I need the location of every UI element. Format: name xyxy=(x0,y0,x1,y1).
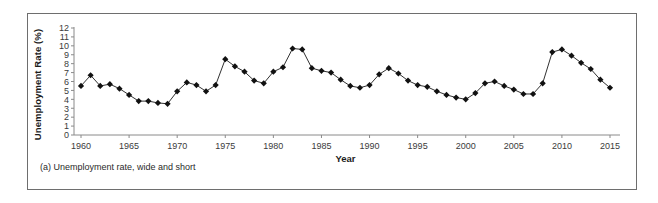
x-tick-label: 2015 xyxy=(600,141,620,151)
data-point-marker xyxy=(463,96,469,102)
data-point-marker xyxy=(107,81,113,87)
y-axis-ticks: 0123456789101112 xyxy=(59,23,74,140)
y-tick-label: 11 xyxy=(60,32,69,42)
x-axis-title: Year xyxy=(335,153,355,164)
data-point-marker xyxy=(395,70,401,76)
data-point-marker xyxy=(491,78,497,84)
data-point-marker xyxy=(126,92,132,98)
data-point-marker xyxy=(328,69,334,75)
y-tick-label: 6 xyxy=(64,77,69,87)
data-point-marker xyxy=(116,86,122,92)
data-point-marker xyxy=(309,65,315,71)
x-tick-label: 1970 xyxy=(167,141,187,151)
data-point-marker xyxy=(549,49,555,55)
y-tick-label: 10 xyxy=(59,41,69,51)
data-point-marker xyxy=(386,65,392,71)
x-tick-label: 1995 xyxy=(408,141,428,151)
y-tick-label: 3 xyxy=(64,104,69,114)
y-tick-label: 2 xyxy=(64,112,69,122)
x-tick-label: 1965 xyxy=(119,141,139,151)
data-point-marker xyxy=(424,84,430,90)
data-point-marker xyxy=(443,92,449,98)
x-tick-label: 1960 xyxy=(71,141,91,151)
x-tick-label: 1990 xyxy=(360,141,380,151)
data-point-marker xyxy=(136,98,142,104)
series-line-unemployment-rate xyxy=(81,49,610,104)
data-point-marker xyxy=(453,94,459,100)
data-point-marker xyxy=(347,83,353,89)
data-point-marker xyxy=(232,63,238,69)
data-point-marker xyxy=(203,88,209,94)
x-tick-label: 1985 xyxy=(311,141,331,151)
y-tick-label: 4 xyxy=(64,95,69,105)
data-point-marker xyxy=(568,53,574,59)
data-point-marker xyxy=(501,83,507,89)
data-point-marker xyxy=(415,82,421,88)
x-tick-label: 1980 xyxy=(263,141,283,151)
data-point-marker xyxy=(434,88,440,94)
data-point-marker xyxy=(357,85,363,91)
data-point-marker xyxy=(155,100,161,106)
data-point-marker xyxy=(511,86,517,92)
figure-caption: (a) Unemployment rate, wide and short xyxy=(40,162,196,172)
data-point-marker xyxy=(145,98,151,104)
x-tick-label: 2010 xyxy=(552,141,572,151)
data-point-marker xyxy=(520,91,526,97)
data-point-markers xyxy=(78,45,613,106)
data-point-marker xyxy=(338,77,344,83)
figure-panel: Unemployment Rate (%) 0123456789101112 1… xyxy=(27,13,637,190)
data-point-marker xyxy=(559,46,565,52)
data-point-marker xyxy=(280,64,286,70)
data-point-marker xyxy=(213,82,219,88)
data-point-marker xyxy=(290,45,296,51)
data-point-marker xyxy=(578,60,584,66)
y-tick-label: 7 xyxy=(64,68,69,78)
y-tick-label: 12 xyxy=(59,23,69,33)
data-point-marker xyxy=(193,82,199,88)
y-tick-label: 5 xyxy=(64,86,69,96)
data-point-marker xyxy=(299,46,305,52)
x-axis-ticks: 1960196519701975198019851990199520002005… xyxy=(71,135,620,151)
y-tick-label: 9 xyxy=(64,50,69,60)
y-tick-label: 8 xyxy=(64,59,69,69)
data-point-marker xyxy=(318,68,324,74)
x-tick-label: 2000 xyxy=(456,141,476,151)
x-tick-label: 2005 xyxy=(504,141,524,151)
x-tick-label: 1975 xyxy=(215,141,235,151)
y-tick-label: 0 xyxy=(64,130,69,140)
y-tick-label: 1 xyxy=(64,121,69,131)
